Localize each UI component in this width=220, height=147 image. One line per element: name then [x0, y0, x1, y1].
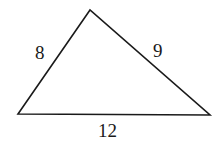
triangle-shape — [18, 10, 210, 115]
side-label-left: 8 — [35, 42, 45, 63]
side-label-right: 9 — [153, 40, 163, 61]
triangle-diagram: 8 9 12 — [0, 0, 220, 147]
side-label-bottom: 12 — [98, 120, 117, 141]
